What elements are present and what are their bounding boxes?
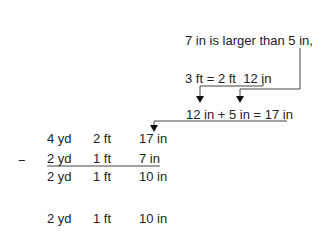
- arrow-head-icon: [150, 125, 158, 132]
- arrow-head-icon: [236, 96, 244, 103]
- arrow-connectors: [0, 0, 322, 232]
- arrow-head-icon: [196, 96, 204, 103]
